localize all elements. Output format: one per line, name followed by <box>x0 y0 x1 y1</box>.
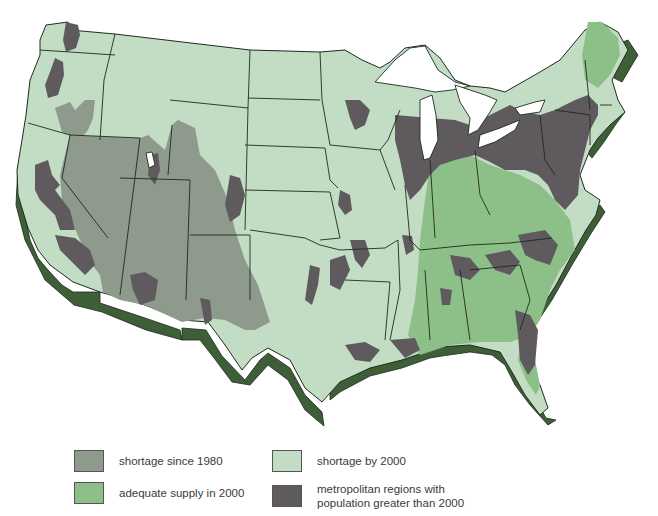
legend-item-shortage-by-2000: shortage by 2000 <box>272 450 406 472</box>
legend: shortage since 1980 shortage by 2000 ade… <box>74 450 634 510</box>
legend-label: shortage by 2000 <box>317 454 406 468</box>
legend-item-adequate-supply: adequate supply in 2000 <box>74 482 244 504</box>
swatch-metropolitan <box>272 485 302 507</box>
swatch-adequate-supply <box>74 482 104 504</box>
swatch-shortage-since-1980 <box>74 450 104 472</box>
legend-label: metropolitan regions with population gre… <box>317 482 464 510</box>
swatch-shortage-by-2000 <box>272 450 302 472</box>
legend-item-shortage-since-1980: shortage since 1980 <box>74 450 223 472</box>
legend-label: adequate supply in 2000 <box>119 486 244 500</box>
us-water-supply-map <box>0 0 658 440</box>
legend-label: shortage since 1980 <box>119 454 223 468</box>
legend-item-metropolitan: metropolitan regions with population gre… <box>272 482 464 510</box>
